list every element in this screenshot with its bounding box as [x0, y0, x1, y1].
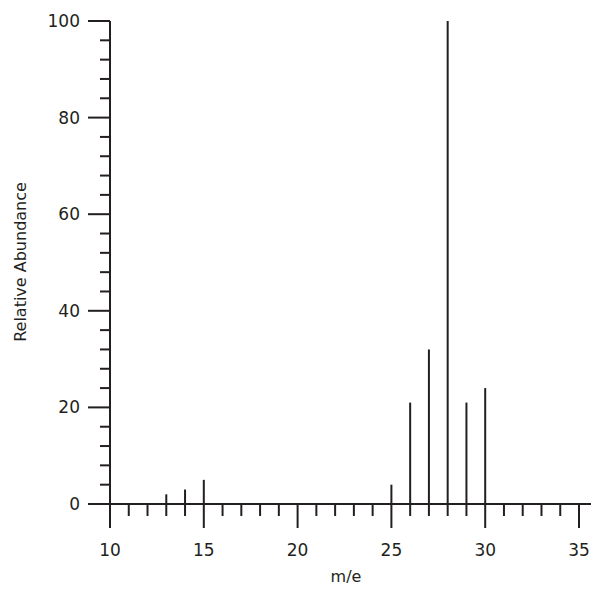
x-tick-label: 15 [193, 540, 215, 560]
peaks [166, 21, 485, 504]
y-tick-label: 20 [58, 397, 80, 417]
y-axis-title: Relative Abundance [11, 182, 30, 342]
x-tick-label: 35 [568, 540, 590, 560]
y-tick-label: 0 [69, 494, 80, 514]
y-tick-label: 80 [58, 108, 80, 128]
x-tick-label: 30 [474, 540, 496, 560]
y-tick-label: 100 [48, 11, 80, 31]
mass-spectrum-chart: 020406080100 101520253035 m/e Relative A… [0, 0, 594, 592]
y-tick-label: 60 [58, 204, 80, 224]
x-axis: 101520253035 [88, 504, 591, 560]
x-tick-label: 25 [381, 540, 403, 560]
x-tick-label: 10 [99, 540, 121, 560]
y-axis: 020406080100 [48, 11, 110, 520]
y-tick-label: 40 [58, 301, 80, 321]
x-tick-label: 20 [287, 540, 309, 560]
x-axis-title: m/e [331, 567, 362, 586]
